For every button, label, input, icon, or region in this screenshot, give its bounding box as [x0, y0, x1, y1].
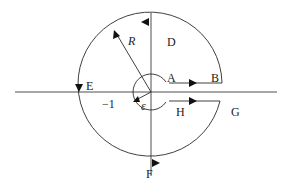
label-epsilon: ε [141, 99, 146, 113]
label-h: H [176, 105, 185, 119]
label-d: D [167, 35, 176, 49]
label-g: G [231, 105, 240, 119]
arrow-f-icon [152, 159, 160, 167]
arrow-ab-icon [189, 79, 197, 87]
contour-svg: A B D E F G H R ε −1 [0, 0, 288, 186]
label-b: B [211, 71, 219, 85]
label-f: F [146, 167, 153, 181]
large-circle-arc [78, 12, 222, 156]
arrow-hg-icon [189, 97, 197, 105]
label-a: A [167, 71, 176, 85]
label-r: R [127, 34, 136, 48]
arrow-e-icon [75, 84, 83, 92]
arrow-top-icon [141, 18, 149, 26]
label-e: E [86, 79, 93, 93]
keyhole-contour-diagram: A B D E F G H R ε −1 [0, 0, 288, 186]
label-minus-one: −1 [102, 97, 115, 111]
